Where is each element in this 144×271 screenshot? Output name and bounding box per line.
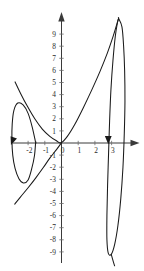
y-tick-label: 6 xyxy=(52,66,56,75)
y-tick-label: -2 xyxy=(50,163,56,172)
y-tick-label: -1 xyxy=(50,151,56,160)
y-tick-label: -8 xyxy=(50,235,56,244)
axes-group xyxy=(13,12,140,263)
x-tick-label: -2 xyxy=(26,146,32,155)
x-tick-label: -1 xyxy=(43,146,49,155)
parametric-curve-figure: -9-8-7-6-5-4-3-2-1123456789 -2-10123 xyxy=(0,0,144,271)
y-tick-label: -9 xyxy=(50,248,56,257)
left-loop-arrow-icon xyxy=(11,136,17,145)
x-tick-label: 3 xyxy=(111,146,115,155)
plot-canvas: -9-8-7-6-5-4-3-2-1123456789 -2-10123 xyxy=(0,0,144,271)
y-tick-label: 5 xyxy=(52,78,56,87)
y-tick-label: 7 xyxy=(52,54,56,63)
y-tick-label: -7 xyxy=(50,223,56,232)
x-tick-label: 0 xyxy=(61,146,65,155)
y-tick-label: 3 xyxy=(52,102,56,111)
y-tick-label: 1 xyxy=(52,127,56,136)
x-axis-arrow-icon xyxy=(131,140,140,146)
y-tick-label: 9 xyxy=(52,30,56,39)
y-tick-label: -6 xyxy=(50,211,56,220)
y-tick-label: -4 xyxy=(50,187,56,196)
y-tick-label: 2 xyxy=(52,114,56,123)
x-axis-tick-labels: -2-10123 xyxy=(26,146,115,155)
y-axis-arrow-icon xyxy=(58,12,64,22)
y-tick-label: 8 xyxy=(52,42,56,51)
x-tick-label: 2 xyxy=(94,146,98,155)
y-tick-label: -5 xyxy=(50,199,56,208)
x-tick-label: 1 xyxy=(78,146,82,155)
y-tick-label: 4 xyxy=(52,90,56,99)
y-tick-label: -3 xyxy=(50,175,56,184)
curve-right-descending-tail xyxy=(111,254,114,265)
curve-upper-branch xyxy=(15,18,119,143)
